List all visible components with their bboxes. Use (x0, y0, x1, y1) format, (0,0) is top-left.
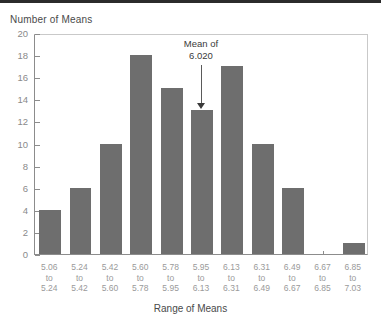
x-tick-label-lower: 6.13 (216, 262, 246, 273)
x-axis-title: Range of Means (0, 303, 381, 314)
histogram-figure: Number of Means 02468101214161820 5.06to… (0, 0, 381, 327)
x-tick-label: 5.95to6.13 (186, 262, 216, 294)
bar (161, 88, 183, 254)
bar (39, 210, 61, 254)
x-tick-label: 5.24to5.42 (64, 262, 94, 294)
y-axis-title: Number of Means (10, 14, 92, 25)
x-tick-label-connector: to (34, 273, 64, 284)
x-tick-label-upper: 6.13 (186, 283, 216, 294)
mean-arrow-head (197, 103, 205, 109)
x-tick-label-upper: 6.85 (307, 283, 337, 294)
bar (70, 188, 92, 254)
x-tick-label-upper: 5.42 (64, 283, 94, 294)
bar (221, 66, 243, 254)
x-tick-label: 6.31to6.49 (247, 262, 277, 294)
y-tick-label: 12 (17, 116, 28, 127)
bar (191, 110, 213, 254)
x-tick-label-lower: 6.67 (307, 262, 337, 273)
x-tick-label-connector: to (277, 273, 307, 284)
x-tick-label-connector: to (155, 273, 185, 284)
x-tick-label: 6.67to6.85 (307, 262, 337, 294)
y-tick-label: 14 (17, 94, 28, 105)
y-tick-label: 4 (23, 205, 28, 216)
y-tick-label: 16 (17, 72, 28, 83)
x-tick-label-upper: 7.03 (338, 283, 368, 294)
x-tick-label-upper: 6.31 (216, 283, 246, 294)
y-tick-label: 20 (17, 28, 28, 39)
mean-annotation: Mean of 6.020 (165, 38, 237, 62)
x-tick-label: 5.06to5.24 (34, 262, 64, 294)
bar (130, 55, 152, 254)
x-tick-label-upper: 6.67 (277, 283, 307, 294)
bar (343, 243, 365, 254)
x-tick-label-lower: 5.95 (186, 262, 216, 273)
x-tick-label: 5.78to5.95 (155, 262, 185, 294)
x-tick-label-lower: 5.24 (64, 262, 94, 273)
x-tick-label-lower: 6.85 (338, 262, 368, 273)
y-tick-mark (35, 255, 40, 256)
mean-annotation-line2: 6.020 (165, 50, 237, 62)
x-tick-label-connector: to (247, 273, 277, 284)
x-tick-label-upper: 5.78 (125, 283, 155, 294)
y-tick-label: 10 (17, 139, 28, 150)
y-tick-label: 0 (23, 249, 28, 260)
top-border-band (0, 0, 381, 3)
x-tick-label-connector: to (186, 273, 216, 284)
x-tick-label-lower: 5.06 (34, 262, 64, 273)
x-tick-label: 6.49to6.67 (277, 262, 307, 294)
y-tick-label: 6 (23, 183, 28, 194)
x-tick-label-upper: 5.60 (95, 283, 125, 294)
x-tick-label-connector: to (307, 273, 337, 284)
y-tick-label: 8 (23, 161, 28, 172)
x-tick-label-lower: 5.42 (95, 262, 125, 273)
x-tick-label: 5.42to5.60 (95, 262, 125, 294)
mean-arrow-shaft (201, 65, 202, 103)
bar (282, 188, 304, 254)
x-tick-label-connector: to (338, 273, 368, 284)
y-tick-label: 18 (17, 50, 28, 61)
bar (252, 144, 274, 255)
x-tick-label-connector: to (64, 273, 94, 284)
x-tick-label-upper: 5.95 (155, 283, 185, 294)
x-tick-label: 6.85to7.03 (338, 262, 368, 294)
mean-annotation-line1: Mean of (165, 38, 237, 50)
x-tick-label-upper: 6.49 (247, 283, 277, 294)
x-tick-label-connector: to (125, 273, 155, 284)
bar (100, 144, 122, 255)
x-tick-label: 5.60to5.78 (125, 262, 155, 294)
x-tick-label-connector: to (216, 273, 246, 284)
x-tick-label-lower: 5.78 (155, 262, 185, 273)
x-tick-label-lower: 6.31 (247, 262, 277, 273)
x-tick-label-upper: 5.24 (34, 283, 64, 294)
y-tick-label: 2 (23, 227, 28, 238)
x-tick-label-connector: to (95, 273, 125, 284)
x-tick-label: 6.13to6.31 (216, 262, 246, 294)
x-tick-label-lower: 6.49 (277, 262, 307, 273)
x-tick-label-lower: 5.60 (125, 262, 155, 273)
